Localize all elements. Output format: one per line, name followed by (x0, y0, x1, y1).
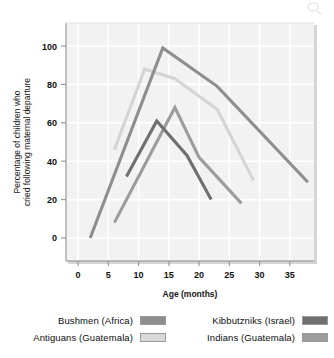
chart-legend: Bushmen (Africa) Antiguans (Guatemala) K… (0, 312, 334, 358)
legend-column-left: Bushmen (Africa) Antiguans (Guatemala) (14, 312, 166, 346)
legend-swatch-bushmen (140, 316, 166, 325)
legend-item-indians: Indians (Guatemala) (172, 329, 328, 346)
y-tick-label: 60 (47, 118, 57, 128)
legend-swatch-antiguans (140, 333, 166, 342)
x-tick-label: 25 (224, 270, 234, 280)
legend-item-antiguans: Antiguans (Guatemala) (14, 329, 166, 346)
y-tick-label: 100 (42, 42, 57, 52)
x-tick-label: 10 (134, 270, 144, 280)
y-tick-label: 40 (47, 157, 57, 167)
x-tick-label: 0 (76, 270, 81, 280)
legend-item-kibbutzniks: Kibbutzniks (Israel) (172, 312, 328, 329)
x-tick-label: 15 (164, 270, 174, 280)
x-axis-title: Age (months) (163, 289, 218, 299)
y-tick-labels: 020406080100 (42, 42, 57, 244)
y-tick-label: 80 (47, 80, 57, 90)
x-tick-labels: 05101520253035 (76, 270, 295, 280)
legend-swatch-indians (302, 333, 328, 342)
x-tick-label: 30 (255, 270, 265, 280)
chart-svg: 05101520253035 020406080100 Age (months)… (0, 0, 334, 300)
line-chart: 05101520253035 020406080100 Age (months)… (0, 0, 334, 300)
y-tick-label: 0 (52, 233, 57, 243)
x-tick-label: 35 (285, 270, 295, 280)
y-axis-title-line1: Percentage of children who (12, 90, 22, 193)
x-tick-label: 5 (106, 270, 111, 280)
plot-shadow-right (314, 25, 317, 264)
legend-label-kibbutzniks: Kibbutzniks (Israel) (212, 315, 295, 326)
legend-item-bushmen: Bushmen (Africa) (14, 312, 166, 329)
legend-column-right: Kibbutzniks (Israel) Indians (Guatemala) (172, 312, 328, 346)
figure-container: 05101520253035 020406080100 Age (months)… (0, 0, 334, 358)
legend-label-antiguans: Antiguans (Guatemala) (33, 332, 133, 343)
y-axis-title-line2: cried following maternal departure (22, 78, 32, 206)
legend-label-indians: Indians (Guatemala) (207, 332, 295, 343)
x-tick-label: 20 (194, 270, 204, 280)
legend-swatch-kibbutzniks (302, 316, 328, 325)
legend-label-bushmen: Bushmen (Africa) (58, 315, 133, 326)
y-tick-label: 20 (47, 195, 57, 205)
